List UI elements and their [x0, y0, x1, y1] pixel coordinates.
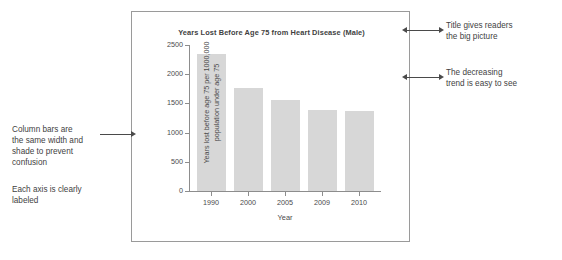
y-tick-2000: [185, 74, 189, 75]
x-tick-1990: [211, 192, 212, 196]
x-axis-title: Year: [189, 213, 381, 222]
chart-title: Years Lost Before Age 75 from Heart Dise…: [132, 28, 411, 37]
annotation-arrow-bars: [100, 130, 136, 139]
annotation-axis-note: Each axis is clearly labeled: [12, 184, 128, 206]
x-tick-2009: [322, 192, 323, 196]
y-tick-2500: [185, 45, 189, 46]
annotation-title-note-line2: the big picture: [446, 31, 560, 42]
y-axis-title-line2: population under age 75: [211, 23, 221, 183]
annotation-trend-note: The decreasing trend is easy to see: [446, 67, 560, 89]
bar-2010: [345, 111, 374, 191]
annotation-axis-note-line2: labeled: [12, 195, 128, 206]
y-tick-500: [185, 162, 189, 163]
plot-area: 0 500 1000 1500 2000 2500 1990 2000 2005…: [189, 45, 381, 191]
annotation-bars-note-line3: shade to prevent: [12, 146, 128, 157]
y-tick-label-0: 0: [149, 187, 183, 195]
annotation-axis-note-line1: Each axis is clearly: [12, 184, 128, 195]
y-tick-label-1500: 1500: [149, 99, 183, 107]
annotation-trend-note-line1: The decreasing: [446, 67, 560, 78]
y-tick-label-1000: 1000: [149, 129, 183, 137]
bar-2009: [308, 110, 337, 191]
y-tick-1000: [185, 133, 189, 134]
x-tick-2005: [285, 192, 286, 196]
y-axis-title-line1: Years lost before age 75 per 1000,000: [202, 23, 212, 183]
y-tick-label-2500: 2500: [149, 41, 183, 49]
y-tick-1500: [185, 103, 189, 104]
annotation-bars-note-line4: confusion: [12, 157, 128, 168]
y-tick-0: [185, 191, 189, 192]
bar-2005: [271, 100, 300, 191]
y-tick-label-2000: 2000: [149, 70, 183, 78]
y-tick-label-500: 500: [149, 158, 183, 166]
x-tick-label-2010: 2010: [335, 198, 383, 207]
annotation-arrow-title: [402, 26, 444, 35]
y-axis-line: [189, 45, 190, 192]
annotation-title-note: Title gives readers the big picture: [446, 20, 560, 42]
y-axis-title: Years lost before age 75 per 1000,000 po…: [202, 23, 221, 183]
chart-container: Years Lost Before Age 75 from Heart Dise…: [131, 11, 410, 242]
annotation-arrow-trend: [402, 73, 444, 82]
annotation-title-note-line1: Title gives readers: [446, 20, 560, 31]
x-tick-2010: [359, 192, 360, 196]
bar-2000: [234, 88, 263, 191]
annotation-trend-note-line2: trend is easy to see: [446, 78, 560, 89]
x-tick-2000: [248, 192, 249, 196]
